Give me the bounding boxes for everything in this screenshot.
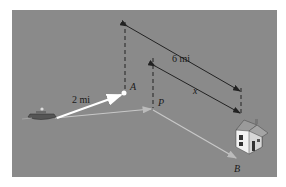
label-P: P <box>157 97 164 108</box>
boat-icon <box>22 107 56 119</box>
label-6mi: 6 mi <box>172 53 190 64</box>
label-B: B <box>234 163 240 174</box>
path-P-to-B <box>153 110 236 158</box>
label-A: A <box>129 81 137 92</box>
label-2mi: 2 mi <box>72 94 90 105</box>
diagram-svg: 2 mi 6 mi x A P B <box>0 0 286 187</box>
dimension-x <box>155 66 240 113</box>
house-icon <box>236 119 268 154</box>
point-A-dot <box>122 91 127 96</box>
label-x: x <box>192 85 198 96</box>
